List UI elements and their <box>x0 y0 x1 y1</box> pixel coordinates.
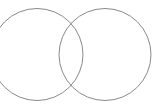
right-circle <box>59 9 151 101</box>
venn-diagram <box>0 0 159 105</box>
left-circle <box>0 9 83 101</box>
